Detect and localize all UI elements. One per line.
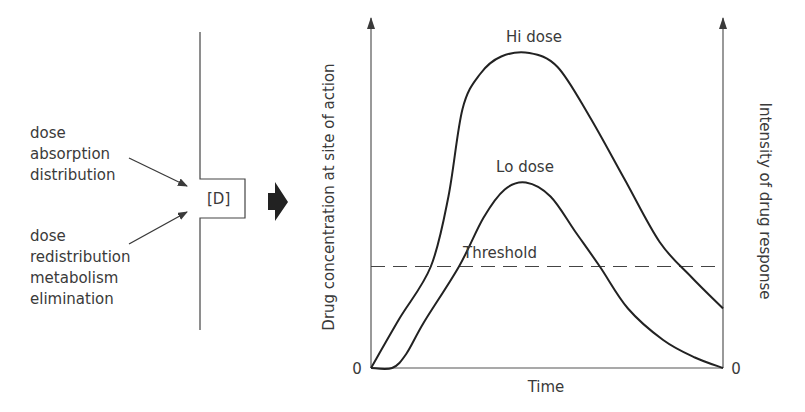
lo-dose-curve — [371, 182, 723, 369]
x-axis-label: Time — [527, 378, 565, 396]
left-origin-label: 0 — [352, 360, 362, 378]
compartment-outline — [200, 32, 245, 330]
lo-dose-label: Lo dose — [496, 158, 554, 176]
output-arrow — [129, 212, 187, 244]
block-arrow-icon — [268, 182, 288, 221]
left-y-axis-label: Drug concentration at site of action — [320, 63, 338, 330]
hi-dose-label: Hi dose — [506, 28, 562, 46]
right-y-axis-label: Intensity of drug response — [756, 103, 774, 300]
right-origin-label: 0 — [731, 360, 741, 378]
threshold-label: Threshold — [462, 244, 537, 262]
diagram-canvas: Hi dose Lo dose Threshold Time 0 0 Drug … — [0, 0, 805, 412]
input-arrow — [129, 158, 187, 186]
